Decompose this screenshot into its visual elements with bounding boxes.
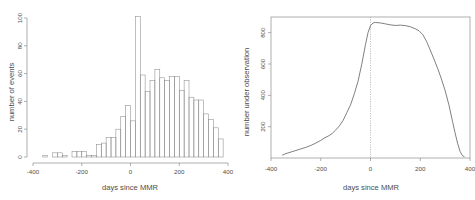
histogram-bar [170, 76, 175, 157]
histogram-bar [179, 90, 184, 157]
x-tick-label: 0 [129, 168, 133, 175]
y-tick-label: 100 [16, 12, 23, 23]
observation-curve [282, 22, 464, 156]
histogram-bar [145, 92, 150, 157]
y-tick-label: 20 [16, 125, 23, 132]
histogram-bar [165, 81, 170, 157]
y-tick-label: 80 [16, 42, 23, 49]
observation-x-axis: -400-2000200400 [265, 158, 475, 172]
histogram-bar [189, 97, 194, 157]
histogram-bar [62, 156, 67, 157]
histogram-bar [199, 100, 204, 157]
histogram-svg: 020406080100 -400-2000200400 days since … [0, 0, 237, 200]
histogram-bar [218, 139, 223, 157]
observation-curve-svg: 200400600800 -400-2000200400 days since … [238, 0, 475, 200]
observation-plot-area [271, 17, 470, 158]
histogram-bar [184, 81, 189, 157]
x-tick-label: 400 [223, 168, 234, 175]
figure-panel-pair: 020406080100 -400-2000200400 days since … [0, 0, 475, 200]
histogram-bar [77, 151, 82, 157]
observation-x-axis-label: days since MMR [343, 183, 400, 192]
y-tick-label: 200 [259, 121, 266, 132]
y-tick-label: 0 [16, 155, 23, 159]
histogram-x-axis-label: days since MMR [102, 183, 159, 192]
histogram-bar [57, 153, 62, 157]
histogram-bar [140, 75, 145, 157]
x-tick-label: 400 [465, 165, 475, 172]
histogram-bar [131, 121, 136, 157]
histogram-bar [194, 100, 199, 157]
histogram-bar [116, 129, 121, 157]
histogram-bar [213, 128, 218, 157]
histogram-bar [209, 119, 214, 157]
histogram-bar [174, 76, 179, 157]
histogram-bar [150, 81, 155, 157]
histogram-y-axis: 020406080100 [16, 12, 27, 158]
histogram-bar [101, 143, 106, 157]
histogram-bar [53, 153, 58, 157]
histogram-bar [106, 138, 111, 157]
histogram-x-axis: -400-2000200400 [27, 163, 234, 175]
y-tick-label: 400 [259, 90, 266, 101]
observation-curve-panel: 200400600800 -400-2000200400 days since … [238, 0, 475, 200]
histogram-plot-area [43, 17, 223, 157]
x-tick-label: 200 [174, 168, 185, 175]
histogram-bar [96, 144, 101, 157]
histogram-bar [155, 69, 160, 157]
histogram-y-axis-label: number of events [7, 62, 16, 121]
histogram-panel: 020406080100 -400-2000200400 days since … [0, 0, 237, 200]
y-tick-label: 40 [16, 97, 23, 104]
histogram-bar [126, 106, 131, 157]
x-tick-label: -200 [315, 165, 328, 172]
histogram-bar [72, 151, 77, 157]
y-tick-label: 800 [259, 27, 266, 38]
histogram-bar [160, 78, 165, 157]
y-tick-label: 60 [16, 70, 23, 77]
x-tick-label: 0 [369, 165, 373, 172]
x-tick-label: 200 [415, 165, 426, 172]
histogram-bar [121, 117, 126, 157]
histogram-bar [204, 114, 209, 157]
observation-y-axis: 200400600800 [259, 27, 271, 132]
y-tick-label: 600 [259, 58, 266, 69]
x-tick-label: -200 [76, 168, 89, 175]
observation-y-axis-label: number under observation [242, 48, 251, 137]
histogram-bar [82, 151, 87, 157]
histogram-bar [111, 138, 116, 157]
x-tick-label: -400 [265, 165, 278, 172]
histogram-bar [92, 156, 97, 157]
histogram-bar [135, 17, 140, 157]
x-tick-label: -400 [27, 168, 40, 175]
histogram-bar [43, 156, 48, 157]
histogram-bar [87, 156, 92, 157]
